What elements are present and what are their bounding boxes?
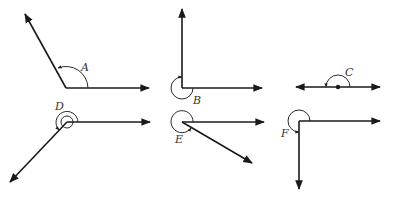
ray-e-2 [182, 122, 252, 163]
label-b: B [192, 94, 201, 107]
arc-d-outer [56, 111, 78, 130]
angle-diagram: A B C D E F [0, 0, 393, 198]
label-c: C [345, 66, 354, 79]
label-d: D [54, 100, 64, 113]
angle-c: C [296, 66, 380, 89]
angle-d: D [10, 100, 150, 182]
label-e: E [174, 133, 183, 146]
angle-f: F [280, 110, 380, 189]
ray-d-2 [10, 122, 67, 182]
vertex-c [336, 85, 340, 89]
ray-a-1 [25, 14, 66, 88]
angle-b: B [171, 9, 262, 107]
label-a: A [80, 61, 89, 74]
angle-a: A [25, 14, 149, 88]
angle-e: E [171, 111, 264, 163]
label-f: F [280, 127, 289, 140]
